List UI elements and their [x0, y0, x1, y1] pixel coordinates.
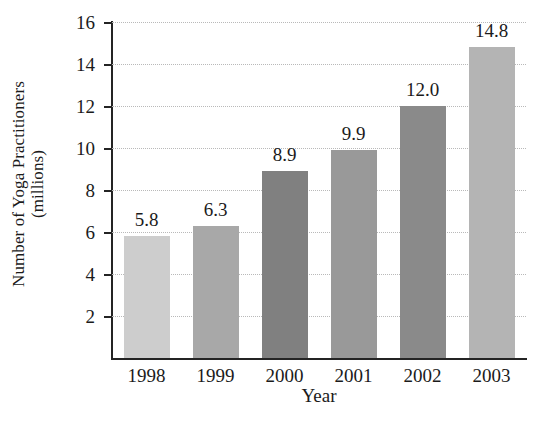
bar-chart-figure: Number of Yoga Practitioners (millions) … [0, 0, 542, 424]
y-axis-tick-label: 16 [76, 13, 95, 32]
y-axis-tick-label: 4 [86, 265, 96, 284]
y-axis-tick [104, 148, 112, 150]
y-axis-tick [104, 106, 112, 108]
bar-value-label: 12.0 [406, 80, 439, 99]
x-axis-tick-label: 2000 [266, 366, 304, 385]
y-axis-title-line1: Number of Yoga Practitioners [9, 81, 28, 287]
bar-slot: 12.0 [400, 22, 446, 358]
y-axis-title: Number of Yoga Practitioners (millions) [0, 0, 56, 368]
bar [124, 236, 170, 358]
bar [262, 171, 308, 358]
y-axis-tick [104, 274, 112, 276]
x-axis-tick-label: 2002 [404, 366, 442, 385]
x-axis-title: Year [112, 386, 526, 405]
bar-series: 5.86.38.99.912.014.8 [112, 22, 526, 358]
bar [469, 47, 515, 358]
y-axis-tick-label: 10 [76, 139, 95, 158]
bar-slot: 5.8 [124, 22, 170, 358]
y-axis-tick [104, 22, 112, 24]
bar [193, 226, 239, 358]
bar [400, 106, 446, 358]
y-axis-title-line2: (millions) [28, 81, 47, 287]
y-axis-tick [104, 232, 112, 234]
y-axis-tick-label: 2 [86, 307, 96, 326]
x-axis-line [111, 358, 527, 360]
bar-value-label: 9.9 [342, 124, 366, 143]
x-axis-tick-label: 1998 [128, 366, 166, 385]
bar-value-label: 5.8 [135, 210, 159, 229]
bar-value-label: 6.3 [204, 200, 228, 219]
y-axis-tick [104, 64, 112, 66]
bar-slot: 14.8 [469, 22, 515, 358]
bar-value-label: 8.9 [273, 145, 297, 164]
y-axis-tick [104, 190, 112, 192]
x-axis-tick-label: 2003 [473, 366, 511, 385]
bar-value-label: 14.8 [475, 21, 508, 40]
y-axis-tick [104, 316, 112, 318]
plot-area: 246810121416 5.86.38.99.912.014.8 199819… [112, 22, 526, 358]
y-axis-tick-label: 12 [76, 97, 95, 116]
y-axis-tick-label: 14 [76, 55, 95, 74]
y-axis-tick-label: 8 [86, 181, 96, 200]
y-axis-tick-label: 6 [86, 223, 96, 242]
x-axis-tick-label: 2001 [335, 366, 373, 385]
bar-slot: 9.9 [331, 22, 377, 358]
bar [331, 150, 377, 358]
bar-slot: 6.3 [193, 22, 239, 358]
x-axis-tick-label: 1999 [197, 366, 235, 385]
bar-slot: 8.9 [262, 22, 308, 358]
